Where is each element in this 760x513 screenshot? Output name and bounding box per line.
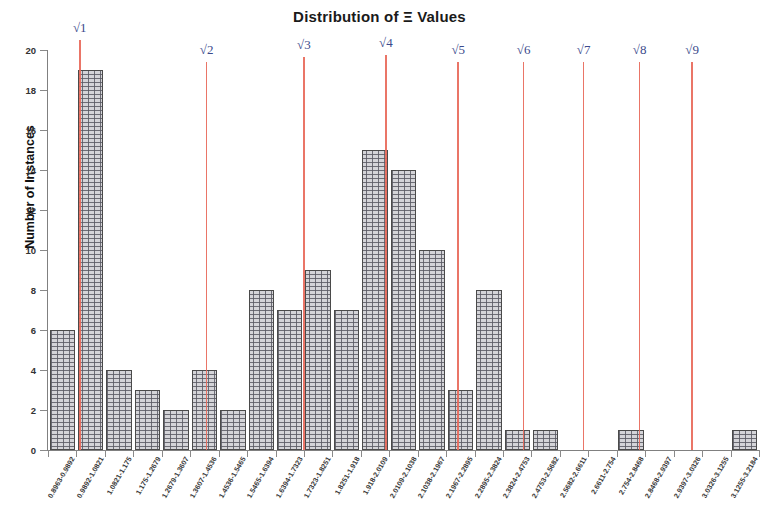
x-tick-mark	[361, 450, 362, 457]
y-tick: 20	[40, 50, 47, 51]
reference-line-label: √1	[73, 20, 87, 36]
reference-line-label: √8	[633, 42, 647, 58]
y-tick: 16	[40, 130, 47, 131]
histogram-bar	[419, 250, 444, 450]
x-tick-mark	[475, 450, 476, 457]
y-tick-mark	[40, 130, 47, 131]
x-tick-mark	[190, 450, 191, 457]
y-tick-label: 12	[25, 205, 36, 216]
x-tick-label: 2.9397-3.0326	[672, 455, 703, 500]
histogram-bar	[448, 390, 473, 450]
x-tick-mark	[645, 450, 646, 457]
x-tick-mark	[418, 450, 419, 457]
histogram-bar	[163, 410, 188, 450]
reference-line-label: √4	[379, 35, 393, 51]
reference-line	[691, 62, 693, 450]
histogram-bar	[106, 370, 131, 450]
x-tick-label: 0.9892-1.0821	[74, 455, 105, 500]
x-tick-mark	[588, 450, 589, 457]
x-tick-label: 2.4753-2.5682	[530, 455, 561, 500]
y-tick-mark	[40, 50, 47, 51]
reference-line-label: √2	[200, 42, 214, 58]
x-tick-label: 3.1255-3.2184	[729, 455, 760, 500]
x-tick-mark	[617, 450, 618, 457]
reference-line	[79, 40, 81, 450]
x-tick-mark	[674, 450, 675, 457]
x-tick-mark	[76, 450, 77, 457]
y-tick-label: 16	[25, 125, 36, 136]
y-tick-label: 8	[31, 285, 36, 296]
plot-area: 02468101214161820 √1√2√3√4√5√6√7√8√9 0.8…	[48, 50, 759, 450]
x-tick-mark	[560, 450, 561, 457]
y-tick-label: 2	[31, 405, 36, 416]
y-tick: 0	[40, 450, 47, 451]
reference-line	[523, 62, 525, 450]
x-tick-label: 1.8251-1.918	[332, 455, 361, 496]
reference-line	[583, 62, 585, 450]
y-tick-label: 6	[31, 325, 36, 336]
y-tick: 18	[40, 90, 47, 91]
chart-title: Distribution of Ξ Values	[0, 8, 759, 25]
x-tick-mark	[731, 450, 732, 457]
reference-line-label: √3	[297, 37, 311, 53]
x-tick-label: 3.0326-3.1255	[700, 455, 731, 500]
x-tick-mark	[702, 450, 703, 457]
reference-line	[639, 62, 641, 450]
y-tick-label: 18	[25, 85, 36, 96]
reference-line	[457, 62, 459, 450]
x-tick-label: 1.2679-1.3607	[160, 455, 191, 500]
y-tick-mark	[40, 170, 47, 171]
x-tick-label: 1.5465-1.6394	[245, 455, 276, 500]
x-tick-mark	[48, 450, 49, 457]
x-tick-label: 0.8963-0.9892	[46, 455, 77, 500]
y-tick: 2	[40, 410, 47, 411]
histogram-bar	[505, 430, 530, 450]
histogram-bar	[533, 430, 558, 450]
y-tick-label: 0	[31, 445, 36, 456]
x-tick-mark	[531, 450, 532, 457]
histogram-bar	[50, 330, 75, 450]
x-tick-label: 1.3607-1.4536	[188, 455, 219, 500]
x-tick-label: 2.0109-2.1038	[387, 455, 418, 500]
histogram-bar	[391, 170, 416, 450]
y-tick-mark	[40, 250, 47, 251]
x-tick-mark	[133, 450, 134, 457]
x-tick-label: 2.1967-2.2895	[444, 455, 475, 500]
x-tick-mark	[105, 450, 106, 457]
x-tick-label: 1.0821-1.175	[105, 455, 134, 496]
y-tick-label: 4	[31, 365, 36, 376]
x-tick-label: 1.4536-1.5465	[217, 455, 248, 500]
y-tick-label: 14	[25, 165, 36, 176]
histogram-bar	[305, 270, 330, 450]
x-tick-label: 2.2895-2.3824	[473, 455, 504, 500]
y-tick: 14	[40, 170, 47, 171]
reference-line	[206, 62, 208, 450]
y-axis-title: Number of Instances	[23, 87, 37, 287]
histogram-bar	[135, 390, 160, 450]
y-tick-mark	[40, 330, 47, 331]
x-tick-mark	[219, 450, 220, 457]
reference-line	[385, 55, 387, 450]
reference-line	[303, 57, 305, 450]
histogram-bar	[334, 310, 359, 450]
reference-line-label: √7	[577, 42, 591, 58]
y-tick-mark	[40, 370, 47, 371]
x-tick-mark	[162, 450, 163, 457]
x-tick-label: 2.3824-2.4753	[501, 455, 532, 500]
y-tick-label: 20	[25, 45, 36, 56]
x-tick-label: 2.6611-2.754	[589, 455, 618, 496]
histogram-bar	[192, 370, 217, 450]
y-tick: 10	[40, 250, 47, 251]
x-tick-mark	[304, 450, 305, 457]
x-tick-label: 2.8468-2.9397	[643, 455, 674, 500]
x-tick-label: 2.5682-2.6611	[558, 455, 589, 499]
y-tick: 8	[40, 290, 47, 291]
histogram-bar	[362, 150, 387, 450]
x-tick-mark	[332, 450, 333, 457]
x-tick-mark	[389, 450, 390, 457]
y-tick-label: 10	[25, 245, 36, 256]
reference-line-label: √5	[451, 42, 465, 58]
histogram-bar	[732, 430, 757, 450]
x-tick-label: 1.7323-1.8251	[302, 455, 333, 500]
